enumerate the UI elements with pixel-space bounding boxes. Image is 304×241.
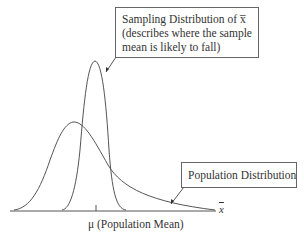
x-bar-axis-label: x (219, 203, 224, 215)
population-callout-label: Population Distribution (188, 169, 296, 181)
sampling-callout-line2: (describes where the sample (122, 26, 252, 40)
population-mean-label: μ (Population Mean) (88, 218, 184, 230)
sampling-distribution-callout: Sampling Distribution of x̅ (describes w… (115, 7, 259, 58)
sampling-curve (62, 61, 126, 210)
sampling-callout-line3: mean is likely to fall) (122, 40, 252, 54)
population-distribution-callout: Population Distribution (181, 162, 297, 188)
diagram-canvas: Sampling Distribution of x̅ (describes w… (0, 0, 304, 241)
sampling-callout-line1: Sampling Distribution of x̅ (122, 12, 252, 26)
